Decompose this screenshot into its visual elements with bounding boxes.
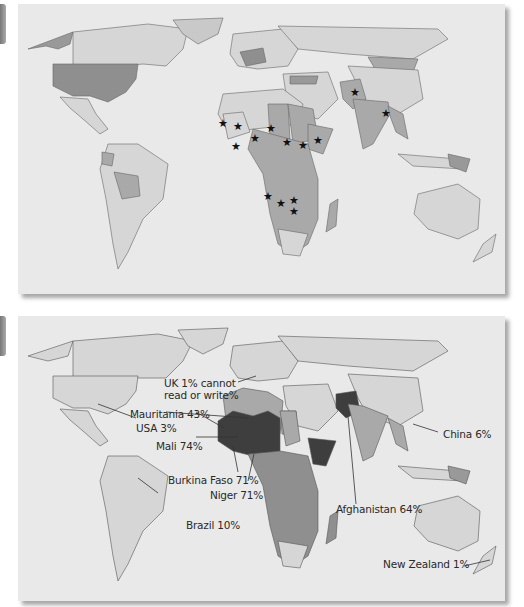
label-uk: UK 1% cannot [164, 377, 236, 389]
svg-text:★: ★ [263, 190, 273, 203]
svg-text:★: ★ [282, 136, 292, 149]
bottom-map-panel: UK 1% cannot read or write% Mauritania 4… [18, 316, 505, 601]
label-new-zealand: New Zealand 1% [383, 558, 469, 570]
label-niger: Niger 71% [210, 489, 263, 501]
label-usa: USA 3% [136, 422, 177, 434]
svg-text:★: ★ [233, 120, 243, 133]
svg-text:★: ★ [381, 107, 391, 120]
top-panel-tab [0, 4, 6, 44]
svg-text:★: ★ [266, 122, 276, 135]
label-china: China 6% [443, 428, 491, 440]
svg-text:★: ★ [231, 140, 241, 153]
label-uk-line2: read or write% [164, 389, 239, 401]
svg-text:★: ★ [276, 197, 286, 210]
label-mali: Mali 74% [156, 440, 202, 452]
top-world-map: ★ ★ ★ ★ ★ ★ ★ ★ ★ ★ ★ ★ ★ ★ [18, 4, 505, 294]
svg-text:★: ★ [250, 132, 260, 145]
label-mauritania: Mauritania 43% [130, 408, 210, 420]
svg-text:★: ★ [218, 117, 228, 130]
svg-text:★: ★ [289, 205, 299, 218]
svg-text:★: ★ [298, 139, 308, 152]
svg-text:★: ★ [313, 134, 323, 147]
label-afghanistan: Afghanistan 64% [336, 503, 422, 515]
top-map-panel: ★ ★ ★ ★ ★ ★ ★ ★ ★ ★ ★ ★ ★ ★ [18, 4, 505, 294]
label-brazil: Brazil 10% [186, 519, 240, 531]
bottom-panel-tab [0, 316, 6, 356]
svg-text:★: ★ [350, 86, 360, 99]
label-burkina-faso: Burkina Faso 71% [168, 474, 258, 486]
